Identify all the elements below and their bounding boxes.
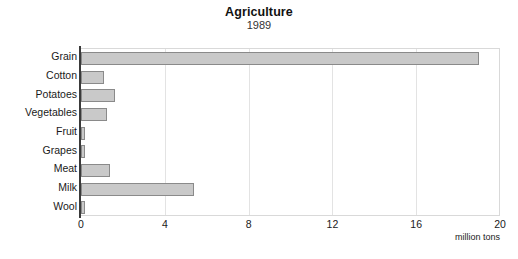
bar-row — [81, 108, 499, 121]
bar-wool — [81, 201, 85, 214]
bar-potatoes — [81, 89, 115, 102]
bar-row — [81, 127, 499, 140]
bar-row — [81, 145, 499, 158]
bar-row — [81, 183, 499, 196]
y-label-grain: Grain — [3, 50, 77, 62]
x-tick-4: 4 — [162, 218, 168, 230]
bar-milk — [81, 183, 194, 196]
x-tick-12: 12 — [327, 218, 339, 230]
chart-figure: Agriculture 1989 GrainCottonPotatoesVege… — [0, 0, 518, 259]
bar-fruit — [81, 127, 85, 140]
bar-row — [81, 164, 499, 177]
y-label-grapes: Grapes — [3, 144, 77, 156]
y-label-fruit: Fruit — [3, 125, 77, 137]
bar-row — [81, 89, 499, 102]
x-tick-20: 20 — [494, 218, 506, 230]
bar-meat — [81, 164, 110, 177]
chart-title-block: Agriculture 1989 — [0, 6, 518, 32]
x-axis-unit-label: million tons — [455, 232, 500, 242]
bar-grapes — [81, 145, 85, 158]
chart-title: Agriculture — [0, 6, 518, 19]
y-label-potatoes: Potatoes — [3, 88, 77, 100]
bar-row — [81, 71, 499, 84]
y-axis-category-labels: GrainCottonPotatoesVegetablesFruitGrapes… — [0, 48, 77, 216]
bar-row — [81, 52, 499, 65]
y-label-cotton: Cotton — [3, 69, 77, 81]
bar-vegetables — [81, 108, 107, 121]
bar-grain — [81, 52, 479, 65]
y-label-vegetables: Vegetables — [3, 106, 77, 118]
plot-area — [81, 48, 500, 216]
y-label-wool: Wool — [3, 200, 77, 212]
bar-row — [81, 201, 499, 214]
x-tick-8: 8 — [246, 218, 252, 230]
x-tick-0: 0 — [78, 218, 84, 230]
y-axis-line — [79, 46, 81, 218]
chart-subtitle: 1989 — [0, 20, 518, 32]
y-label-milk: Milk — [3, 181, 77, 193]
x-axis-tick-labels: 048121620 — [0, 218, 518, 234]
y-label-meat: Meat — [3, 162, 77, 174]
bar-cotton — [81, 71, 104, 84]
x-tick-16: 16 — [410, 218, 422, 230]
